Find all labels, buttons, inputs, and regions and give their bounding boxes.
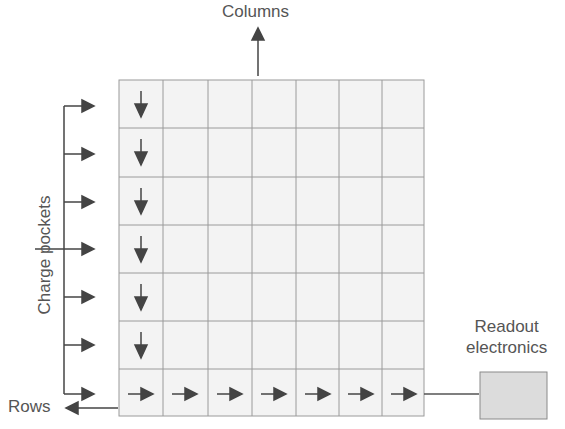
readout-label-line1: Readout xyxy=(466,316,547,337)
right-arrow-icon xyxy=(64,148,94,160)
right-arrow-icon xyxy=(64,388,94,400)
right-arrow-icon xyxy=(64,243,94,255)
right-arrow-icon xyxy=(64,196,94,208)
columns-up-arrow-icon xyxy=(252,28,264,76)
columns-label: Columns xyxy=(222,2,289,22)
charge-pockets-label: Charge pockets xyxy=(35,170,55,340)
ccd-diagram xyxy=(0,0,565,429)
readout-electronics-box xyxy=(480,372,547,419)
right-arrow-icon xyxy=(64,339,94,351)
right-arrow-icon xyxy=(64,100,94,112)
readout-label-line2: electronics xyxy=(466,337,547,358)
right-arrow-icon xyxy=(64,291,94,303)
pixel-grid xyxy=(119,80,424,416)
rows-left-arrow-icon xyxy=(66,402,118,414)
readout-electronics-label: Readout electronics xyxy=(466,316,547,358)
rows-label: Rows xyxy=(8,397,51,417)
